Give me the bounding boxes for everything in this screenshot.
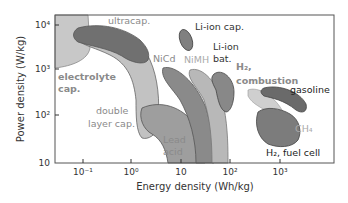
- region-h2-fuel-cell: [256, 108, 299, 146]
- y-tick-label: 10: [39, 158, 51, 168]
- label-acid: acid: [163, 146, 183, 157]
- label-bat: bat.: [213, 53, 232, 64]
- label-li-ion: Li-ion: [213, 41, 239, 52]
- label-nicd: NiCd: [153, 53, 175, 64]
- label-lead: Lead: [163, 134, 186, 145]
- x-tick-label: 10: [175, 167, 187, 177]
- x-tick-label: 10⁻¹: [73, 167, 93, 177]
- label-ch4: CH₄: [295, 123, 313, 134]
- x-tick-label: 10⁰: [123, 167, 138, 177]
- y-tick-label: 10²: [35, 110, 50, 120]
- y-axis-title: Power density (W/kg): [15, 36, 26, 143]
- label-h2: H₂,: [236, 61, 252, 72]
- label-electrolyte: electrolyte: [58, 71, 116, 82]
- x-tick-label: 10³: [272, 167, 287, 177]
- region-li-ion-cap: [177, 28, 196, 53]
- label-double: double: [96, 105, 129, 116]
- ragone-plot: 10⁴ 10³ 10² 10 10⁻¹ 10⁰ 10 10² 10³ Energ…: [0, 0, 348, 203]
- label-layer-cap: layer cap.: [88, 118, 135, 129]
- label-gasoline: gasoline: [290, 84, 330, 95]
- x-tick-label: 10²: [222, 167, 237, 177]
- label-fuel-cell: H₂, fuel cell: [266, 147, 320, 158]
- x-axis-title: Energy density (Wh/kg): [136, 181, 254, 192]
- label-ultracap: ultracap.: [108, 15, 150, 26]
- x-ticks: [83, 159, 280, 163]
- y-tick-label: 10⁴: [35, 20, 50, 30]
- y-tick-label: 10³: [35, 64, 50, 74]
- label-li-ion-cap: Li-ion cap.: [195, 21, 244, 32]
- label-electrolyte-cap: cap.: [58, 83, 80, 94]
- label-nimh: NiMH: [184, 54, 209, 65]
